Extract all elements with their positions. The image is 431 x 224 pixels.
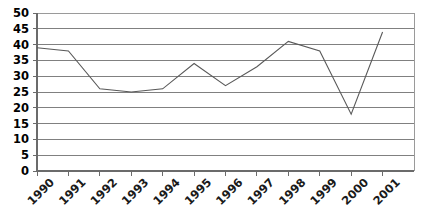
x-tick-marks-group: [37, 171, 383, 176]
y-tick-label-30: 30: [13, 69, 29, 83]
x-tick-label-1998: 1998: [276, 175, 309, 208]
y-tick-label-0: 0: [21, 164, 29, 178]
x-tick-label-1999: 1999: [307, 175, 340, 208]
y-tick-labels-group: 05101520253035404550: [13, 6, 29, 178]
x-tick-label-1994: 1994: [150, 175, 183, 208]
line-chart: 05101520253035404550 1990199119921993199…: [0, 0, 431, 224]
x-tick-label-1991: 1991: [56, 175, 89, 208]
y-tick-label-15: 15: [13, 117, 29, 131]
x-tick-label-1990: 1990: [25, 175, 58, 208]
x-tick-label-2000: 2000: [339, 175, 372, 208]
chart-canvas: 05101520253035404550 1990199119921993199…: [0, 0, 431, 224]
y-tick-label-20: 20: [13, 101, 29, 115]
y-tick-label-25: 25: [13, 85, 29, 99]
y-tick-label-45: 45: [13, 22, 29, 36]
y-tick-label-35: 35: [13, 53, 29, 67]
x-tick-label-1996: 1996: [213, 175, 246, 208]
y-tick-label-40: 40: [13, 38, 29, 52]
x-tick-labels-group: 1990199119921993199419951996199719981999…: [25, 175, 403, 208]
y-tick-label-10: 10: [13, 132, 29, 146]
y-tick-label-50: 50: [13, 6, 29, 20]
x-tick-label-1993: 1993: [119, 175, 152, 208]
gridlines-group: [37, 13, 414, 155]
x-tick-label-1992: 1992: [87, 175, 120, 208]
y-tick-label-5: 5: [21, 148, 29, 162]
x-tick-label-1995: 1995: [182, 175, 215, 208]
x-tick-label-1997: 1997: [245, 175, 278, 208]
x-tick-label-2001: 2001: [370, 175, 403, 208]
